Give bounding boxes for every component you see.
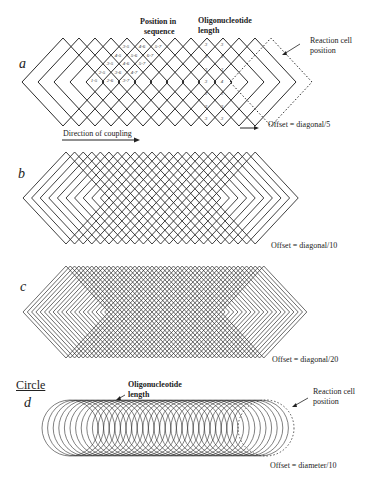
offset-label-a: Offset = diagonal/5 bbox=[268, 120, 330, 129]
cell-label: 5-6 bbox=[131, 53, 138, 58]
direction-of-coupling-label: Direction of coupling bbox=[63, 129, 132, 138]
length-value: 3 bbox=[221, 67, 224, 72]
length-value: 4 bbox=[221, 79, 224, 84]
cell-label: 4-6 bbox=[139, 44, 146, 49]
panel-letter-b: b bbox=[18, 166, 25, 182]
cell-label: 5-7 bbox=[155, 44, 162, 49]
reaction-cell-label-d-line1: Reaction cell bbox=[313, 387, 355, 396]
position-in-sequence-label-line1: Position in bbox=[140, 17, 176, 26]
position-in-sequence-label-line2: sequence bbox=[144, 27, 175, 36]
cell-label: 2-6 bbox=[107, 78, 114, 83]
cell-label: 3-6 bbox=[115, 70, 122, 75]
length-value: 3 bbox=[205, 79, 208, 84]
offset-label-d: Offset = diameter/10 bbox=[270, 461, 337, 470]
offset-label-c: Offset = diagonal/20 bbox=[272, 355, 338, 364]
cell-label: 5-7 bbox=[139, 61, 146, 66]
length-value: 3 bbox=[221, 116, 224, 121]
length-value: 3 bbox=[205, 42, 208, 47]
length-value: 3 bbox=[205, 67, 208, 72]
panel-a-diamonds bbox=[22, 38, 312, 126]
panel-letter-a: a bbox=[19, 56, 26, 72]
oligonucleotide-length-label-line2: length bbox=[198, 26, 219, 35]
oligonucleotide-length-label-line1: Oligonucleotide bbox=[198, 16, 252, 25]
reaction-cell-label-d-line2: position bbox=[313, 397, 339, 406]
panel-d-circles bbox=[42, 400, 294, 456]
length-value: 3 bbox=[221, 42, 224, 47]
cell-label: 1-5 bbox=[91, 78, 98, 83]
oligonucleotide-length-label-d-line2: length bbox=[128, 390, 149, 399]
length-value: 3 bbox=[205, 104, 208, 109]
direction-arrow-icon bbox=[62, 138, 140, 143]
cell-label: 3-5 bbox=[107, 61, 114, 66]
panel-c-diamonds bbox=[23, 266, 307, 358]
cell-label: 4-7 bbox=[131, 70, 138, 75]
figure: 3-54-65-74-55-66-73-54-65-72-53-64-71-52… bbox=[0, 0, 375, 483]
length-value: 3 bbox=[221, 104, 224, 109]
cell-label: 2-5 bbox=[99, 70, 106, 75]
circle-title: Circle bbox=[16, 378, 45, 393]
panel-b-diamonds bbox=[23, 152, 298, 244]
oligonucleotide-length-label-d-line1: Oligonucleotide bbox=[128, 380, 182, 389]
reaction-cell-label-a-line1: Reaction cell bbox=[310, 36, 352, 45]
cell-label: 3-5 bbox=[123, 44, 130, 49]
reaction-cell-pointer-d-icon bbox=[292, 398, 308, 407]
panel-letter-c: c bbox=[20, 279, 26, 295]
length-value: 3 bbox=[205, 116, 208, 121]
cell-label: 3-7 bbox=[123, 78, 130, 83]
panel-letter-d: d bbox=[24, 395, 31, 411]
cell-label: 4-5 bbox=[115, 53, 122, 58]
length-pointer-d-icon bbox=[116, 395, 125, 400]
offset-arrow-icon bbox=[240, 126, 259, 130]
cell-label: 6-7 bbox=[147, 53, 154, 58]
cell-label: 4-6 bbox=[123, 61, 130, 66]
offset-label-b: Offset = diagonal/10 bbox=[271, 241, 337, 250]
reaction-cell-label-a-line2: position bbox=[310, 46, 336, 55]
reaction-cell-pointer-a-icon bbox=[282, 44, 300, 55]
